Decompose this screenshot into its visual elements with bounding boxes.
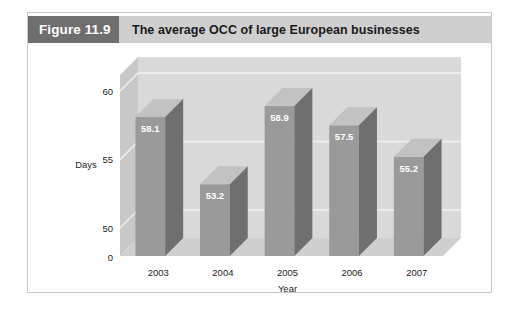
figure-box: Figure 11.9 The average OCC of large Eur… bbox=[27, 12, 492, 293]
bar-front-face[interactable] bbox=[135, 117, 165, 256]
y-axis-tick-label: 0 bbox=[108, 252, 113, 263]
y-axis-title: Days bbox=[75, 159, 97, 170]
x-axis-tick-label: 2004 bbox=[212, 267, 233, 278]
bar-value-label: 57.5 bbox=[335, 131, 354, 142]
bar-value-label: 58.1 bbox=[141, 123, 160, 134]
bar-front-face[interactable] bbox=[329, 125, 359, 256]
x-axis: 20032004200520062007Year bbox=[148, 267, 428, 292]
y-axis: 0505560Days bbox=[75, 86, 113, 263]
bar[interactable]: 58.1 bbox=[135, 99, 183, 256]
bar-side-face bbox=[294, 88, 312, 256]
figure-title: The average OCC of large European busine… bbox=[119, 16, 491, 43]
x-axis-tick-label: 2005 bbox=[277, 267, 298, 278]
bar-chart: 55.257.558.953.258.10505560Days200320042… bbox=[28, 43, 491, 292]
bar-side-face bbox=[424, 139, 442, 256]
bar-front-face[interactable] bbox=[265, 106, 295, 256]
bar-value-label: 58.9 bbox=[270, 112, 289, 123]
bar-side-face bbox=[359, 107, 377, 256]
x-axis-tick-label: 2003 bbox=[148, 267, 169, 278]
figure-header: Figure 11.9 The average OCC of large Eur… bbox=[28, 16, 491, 43]
bar[interactable]: 57.5 bbox=[329, 107, 377, 256]
bar-side-face bbox=[165, 99, 183, 256]
figure-number-label: Figure 11.9 bbox=[28, 16, 119, 43]
x-axis-tick-label: 2006 bbox=[342, 267, 363, 278]
bar-value-label: 55.2 bbox=[399, 163, 418, 174]
bar-value-label: 53.2 bbox=[206, 190, 225, 201]
x-axis-tick-label: 2007 bbox=[406, 267, 427, 278]
y-axis-tick-label: 55 bbox=[102, 154, 113, 165]
bar[interactable]: 58.9 bbox=[265, 88, 313, 256]
chart-area: 55.257.558.953.258.10505560Days200320042… bbox=[28, 43, 491, 292]
bar[interactable]: 53.2 bbox=[200, 166, 248, 256]
x-axis-title: Year bbox=[278, 283, 297, 292]
bar[interactable]: 55.2 bbox=[394, 139, 442, 256]
page-root: Figure 11.9 The average OCC of large Eur… bbox=[0, 0, 516, 313]
y-axis-tick-label: 50 bbox=[102, 223, 113, 234]
y-axis-tick-label: 60 bbox=[102, 86, 113, 97]
